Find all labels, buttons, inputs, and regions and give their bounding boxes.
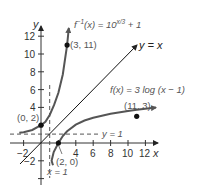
point-3-11-label: (3, 11) (70, 39, 97, 50)
x-tick-8: 8 (108, 148, 114, 159)
svg-text:f−1(x) = 10x/3 + 1: f−1(x) = 10x/3 + 1 (74, 18, 141, 30)
horizontal-asymptote-label: y = 1 (101, 128, 123, 139)
y-tick-10: 10 (24, 49, 36, 60)
vertical-asymptote-label: x = 1 (46, 166, 68, 177)
point-11-3 (134, 114, 139, 119)
point-11-3-label: (11, 3) (124, 100, 151, 111)
y-axis: 12 10 8 6 4 −2 y (24, 18, 44, 185)
inverse-function-label: f−1(x) = 10x/3 + 1 (74, 18, 141, 30)
y-tick-12: 12 (24, 31, 36, 42)
x-axis-label: x (152, 147, 159, 159)
point-3-11 (65, 43, 70, 48)
point-2-0 (56, 140, 61, 145)
y-axis-label: y (32, 18, 40, 30)
identity-line (20, 45, 137, 164)
point-2-0-label: (2, 0) (56, 156, 78, 167)
y-tick-8: 8 (30, 67, 36, 78)
point-0-2 (38, 123, 43, 128)
point-0-2-label: (0, 2) (17, 112, 39, 123)
x-tick-6: 6 (90, 148, 96, 159)
function-graph: −2 4 6 8 10 12 x 12 10 8 6 4 −2 y y = 1 … (0, 0, 205, 196)
x-tick-10: 10 (122, 148, 134, 159)
function-label: f(x) = 3 log (x − 1) (110, 84, 185, 95)
y-tick-6: 6 (30, 85, 36, 96)
identity-label: y = x (138, 39, 163, 51)
x-tick-12: 12 (139, 148, 151, 159)
